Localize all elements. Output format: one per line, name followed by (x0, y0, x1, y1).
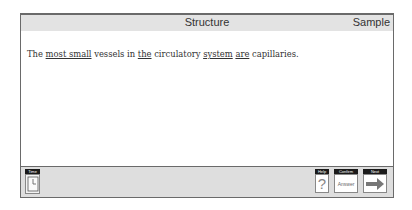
sentence-text: circulatory (152, 49, 204, 59)
next-button[interactable]: Next (363, 169, 387, 193)
section-title: Structure (21, 16, 393, 28)
answer-text: Answer (334, 174, 358, 193)
question-sentence: The most small vessels in the circulator… (27, 49, 299, 59)
question-mark-icon: ? (315, 174, 329, 193)
clock-icon (25, 174, 40, 194)
underlined-option-a[interactable]: most small (46, 49, 92, 59)
sentence-text: The (27, 49, 46, 59)
footer-toolbar: Time Help ? Confirm Answer Next (21, 166, 393, 197)
sentence-text: vessels in (92, 49, 138, 59)
header-bar: Structure Sample (21, 15, 393, 31)
time-button[interactable]: Time (25, 169, 40, 194)
test-window: Structure Sample The most small vessels … (20, 13, 394, 198)
confirm-answer-button[interactable]: Confirm Answer (334, 169, 358, 193)
help-button[interactable]: Help ? (315, 169, 329, 193)
arrow-right-icon (363, 174, 387, 193)
underlined-option-c[interactable]: system (203, 49, 233, 59)
underlined-option-b[interactable]: the (138, 49, 152, 59)
sentence-text: capillaries. (249, 49, 298, 59)
mode-label: Sample (353, 16, 390, 28)
underlined-option-d[interactable]: are (235, 49, 249, 59)
